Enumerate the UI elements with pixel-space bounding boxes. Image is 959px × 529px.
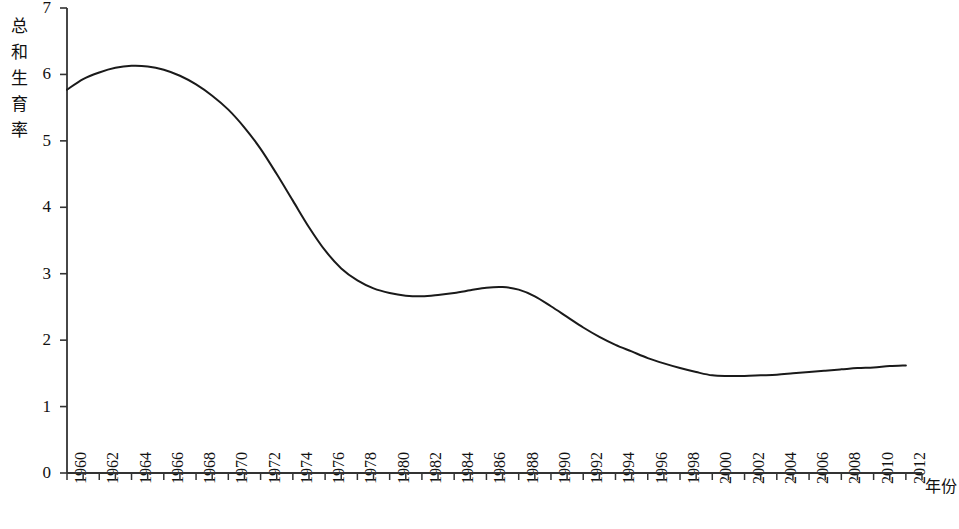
plot-area: [0, 0, 959, 529]
axis-lines: [67, 8, 922, 473]
fertility-rate-chart: 总和生育率 年份 01234567 1960196219641966196819…: [0, 0, 959, 529]
fertility-rate-line: [67, 66, 906, 376]
y-axis-ticks: [60, 8, 67, 473]
x-axis-ticks: [67, 473, 922, 480]
